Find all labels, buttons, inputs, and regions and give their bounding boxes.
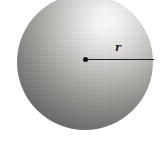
center-dot	[83, 57, 88, 62]
radius-line	[85, 59, 154, 60]
figure-canvas: r	[0, 0, 163, 153]
radius-label: r	[112, 42, 124, 54]
sphere	[17, 0, 153, 130]
